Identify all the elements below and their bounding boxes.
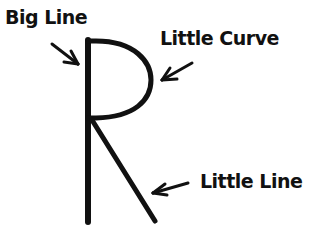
arrow-to-little-curve-icon xyxy=(162,63,192,80)
letter-r-diagram: Big Line Little Curve Little Line xyxy=(0,0,335,241)
arrow-to-little-line-icon xyxy=(153,183,188,195)
little-line-stroke xyxy=(92,120,155,221)
little-curve-label: Little Curve xyxy=(160,27,279,49)
arrow-to-big-line-icon xyxy=(52,44,78,64)
big-line-label: Big Line xyxy=(5,6,87,28)
little-line-label: Little Line xyxy=(200,170,302,192)
little-curve-stroke xyxy=(88,41,151,118)
